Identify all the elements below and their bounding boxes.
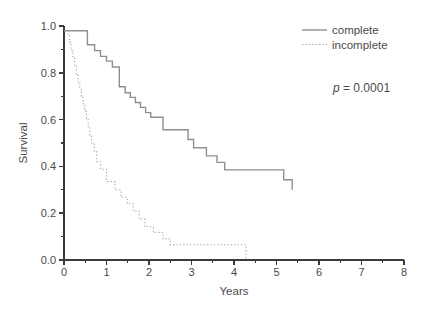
- x-tick-label: 8: [401, 266, 407, 278]
- legend-label-complete: complete: [332, 24, 379, 36]
- x-tick-label: 0: [61, 266, 67, 278]
- legend: complete incomplete: [302, 24, 388, 51]
- x-tick-label: 1: [103, 266, 109, 278]
- p-value-annotation: p = 0.0001: [332, 81, 390, 95]
- axis-ticks: [59, 26, 404, 265]
- curve-incomplete: [67, 34, 246, 260]
- x-tick-label: 4: [231, 266, 237, 278]
- survival-curves: [64, 31, 292, 260]
- x-axis-title: Years: [220, 285, 249, 297]
- y-tick-label: 0.2: [41, 207, 56, 219]
- y-tick-label: 0.4: [41, 160, 56, 172]
- y-tick-label: 1.0: [41, 20, 56, 32]
- y-tick-label: 0.8: [41, 67, 56, 79]
- axes: [64, 26, 404, 260]
- survival-plot-figure: 0123456780.00.20.40.60.81.0 Survival Yea…: [0, 0, 429, 311]
- survival-chart: 0123456780.00.20.40.60.81.0 Survival Yea…: [0, 0, 429, 311]
- y-tick-label: 0.6: [41, 114, 56, 126]
- x-tick-label: 6: [316, 266, 322, 278]
- x-tick-label: 3: [188, 266, 194, 278]
- y-tick-label: 0.0: [41, 254, 56, 266]
- x-tick-label: 5: [273, 266, 279, 278]
- curve-complete: [64, 31, 292, 190]
- axis-tick-labels: 0123456780.00.20.40.60.81.0: [41, 20, 407, 278]
- legend-label-incomplete: incomplete: [332, 39, 388, 51]
- x-tick-label: 7: [358, 266, 364, 278]
- y-axis-title: Survival: [17, 123, 29, 164]
- x-tick-label: 2: [146, 266, 152, 278]
